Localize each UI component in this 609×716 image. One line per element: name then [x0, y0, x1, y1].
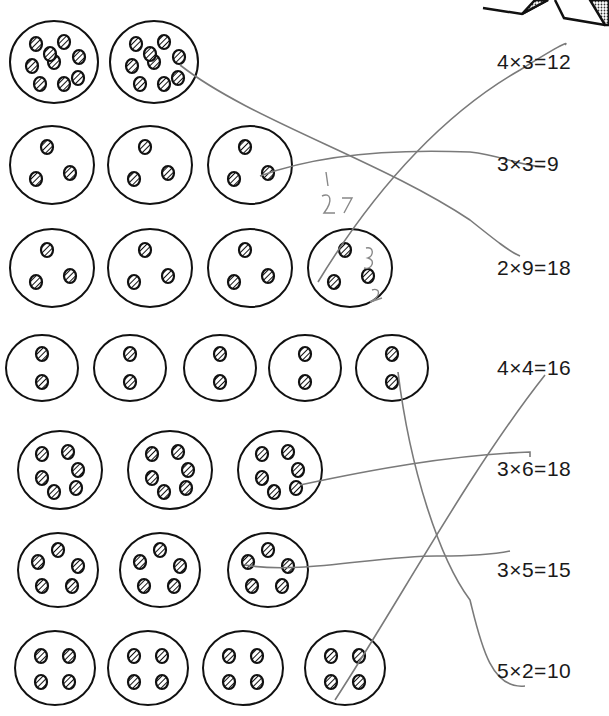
equation-3x6: 3×6=18 — [497, 457, 571, 481]
chocolate-chip — [72, 559, 84, 573]
chocolate-chip — [72, 463, 84, 477]
cookie — [108, 631, 188, 705]
chocolate-chip — [130, 37, 142, 51]
chocolate-chip — [62, 445, 74, 459]
chocolate-chip — [214, 347, 226, 361]
chocolate-chip — [180, 481, 192, 495]
chocolate-chip — [48, 485, 60, 499]
chocolate-chip — [134, 555, 146, 569]
chocolate-chip — [41, 243, 53, 257]
cookie — [10, 229, 94, 307]
cookie — [6, 335, 78, 401]
chocolate-chip — [32, 555, 44, 569]
chocolate-chip — [174, 559, 186, 573]
chocolate-chip — [30, 37, 42, 51]
chocolate-chip — [292, 463, 304, 477]
chocolate-chip — [146, 471, 158, 485]
chocolate-chip — [228, 275, 240, 289]
chocolate-chip — [124, 347, 136, 361]
chocolate-chip — [262, 543, 274, 557]
chocolate-chip — [362, 269, 374, 283]
cookie — [238, 431, 322, 509]
chocolate-chip — [128, 675, 140, 689]
chocolate-chip — [70, 481, 82, 495]
chocolate-chip — [256, 471, 268, 485]
equation-4x3: 4×3=12 — [497, 50, 571, 74]
chocolate-chip — [276, 579, 288, 593]
cookie — [108, 229, 192, 307]
cookie — [269, 335, 341, 401]
chocolate-chip — [256, 447, 268, 461]
cookie — [184, 335, 256, 401]
chocolate-chip — [182, 463, 194, 477]
chocolate-chip — [64, 166, 76, 180]
chocolate-chip — [44, 47, 56, 61]
corner-decoration — [483, 0, 609, 25]
chocolate-chip — [36, 347, 48, 361]
cookie — [305, 631, 385, 705]
chocolate-chip — [139, 140, 151, 154]
chocolate-chip — [146, 447, 158, 461]
chocolate-chip — [282, 445, 294, 459]
chocolate-chip — [158, 35, 170, 49]
chocolate-chip — [66, 579, 78, 593]
equation-4x4: 4×4=16 — [497, 356, 571, 380]
chocolate-chip — [262, 269, 274, 283]
chocolate-chip — [290, 481, 302, 495]
chocolate-chip — [139, 243, 151, 257]
chocolate-chip — [30, 172, 42, 186]
chocolate-chip — [239, 243, 251, 257]
cookie — [308, 229, 392, 307]
chocolate-chip — [138, 579, 150, 593]
chocolate-chip — [168, 579, 180, 593]
cookie — [203, 631, 283, 705]
chocolate-chip — [158, 77, 170, 91]
chocolate-chip — [36, 579, 48, 593]
cookie — [94, 335, 166, 401]
chocolate-chip — [30, 275, 42, 289]
chocolate-chip — [34, 77, 46, 91]
chocolate-chip — [325, 649, 337, 663]
chocolate-chip — [156, 649, 168, 663]
chocolate-chip — [158, 485, 170, 499]
cookie — [10, 126, 94, 204]
chocolate-chip — [36, 447, 48, 461]
chocolate-chip — [239, 140, 251, 154]
chocolate-chip — [52, 543, 64, 557]
chocolate-chip — [73, 50, 85, 64]
chocolate-chip — [134, 77, 146, 91]
chocolate-chip — [35, 649, 47, 663]
cookie — [208, 229, 292, 307]
chocolate-chip — [299, 347, 311, 361]
chocolate-chip — [36, 471, 48, 485]
chocolate-chip — [328, 275, 340, 289]
chocolate-chip — [63, 675, 75, 689]
chocolate-chip — [214, 375, 226, 389]
chocolate-chip — [162, 166, 174, 180]
chocolate-chip — [154, 543, 166, 557]
cookie — [15, 631, 95, 705]
cookie — [18, 431, 102, 509]
equation-3x3: 3×3=9 — [497, 152, 559, 176]
chocolate-chip — [246, 579, 258, 593]
chocolate-chip — [128, 649, 140, 663]
cookie — [108, 126, 192, 204]
chocolate-chip — [173, 50, 185, 64]
cookie — [356, 335, 428, 401]
chocolate-chip — [124, 375, 136, 389]
chocolate-chip — [64, 269, 76, 283]
chocolate-chip — [36, 375, 48, 389]
chocolate-chip — [128, 172, 140, 186]
chocolate-chip — [41, 140, 53, 154]
chocolate-chip — [386, 347, 398, 361]
chocolate-chip — [26, 59, 38, 73]
chocolate-chip — [156, 675, 168, 689]
chocolate-chip — [386, 375, 398, 389]
cookie — [128, 431, 212, 509]
chocolate-chip — [126, 59, 138, 73]
chocolate-chip — [144, 47, 156, 61]
chocolate-chip — [72, 71, 84, 85]
worksheet: 4×3=12 3×3=9 2×9=18 4×4=16 3×6=18 3×5=15… — [0, 0, 609, 716]
chocolate-chip — [162, 269, 174, 283]
chocolate-chip — [228, 172, 240, 186]
